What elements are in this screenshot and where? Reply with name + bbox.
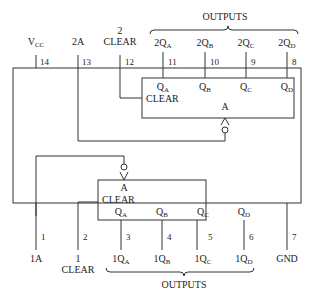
clear2-label: CLEAR [104,37,137,47]
pin-2qb-label: 2QB [197,38,214,48]
pin-5: 5 [208,232,213,242]
counter1-qb: QB [156,207,168,217]
ic-pinout-diagram: VCC 14 2A 13 2 CLEAR 12 OUTPUTS 2QA 11 2… [0,0,320,299]
counter2-qc: QC [240,82,252,92]
pin-2qc-label: 2QC [238,38,255,48]
pin-13: 13 [82,57,91,67]
input-1a-label: 1A [30,254,42,264]
pin-6: 6 [249,232,254,242]
pin-7: 7 [292,232,297,242]
pin-4: 4 [167,232,172,242]
pin-3: 3 [126,232,131,242]
pin-8: 8 [292,57,297,67]
counter2-clear-label: CLEAR [146,94,179,104]
pin-1: 1 [41,232,46,242]
vcc-label: VCC [28,37,45,47]
counter2-qd: QD [281,82,293,92]
pin-1qa-label: 1QA [112,254,129,264]
clear1-number: 1 [76,254,81,264]
pin-10: 10 [210,57,219,67]
pin-9: 9 [251,57,256,67]
top-outputs-label: OUTPUTS [202,12,247,22]
counter2-clock-label: A [221,102,228,112]
pin-1qc-label: 1QC [195,254,212,264]
pin-14: 14 [40,57,49,67]
clear1-label: CLEAR [62,265,95,275]
pin-1qb-label: 1QB [154,254,171,264]
counter2-qb: QB [199,82,211,92]
pin-2qa-label: 2QA [154,38,171,48]
pin-1qd-label: 1QD [235,254,252,264]
pin-2: 2 [83,232,88,242]
counter1-qc: QC [197,207,209,217]
pin-2qd-label: 2QD [278,38,295,48]
pin-12: 12 [125,57,134,67]
gnd-label: GND [276,254,298,264]
bottom-outputs-label: OUTPUTS [161,280,206,290]
clear2-number: 2 [118,26,123,36]
counter1-qa: QA [115,207,127,217]
pin-11: 11 [168,57,177,67]
counter1-qd: QD [238,207,250,217]
counter1-clock-label: A [120,183,127,193]
counter1-clear-label: CLEAR [102,195,135,205]
input-2a-label: 2A [72,37,84,47]
counter2-qa: QA [157,82,169,92]
